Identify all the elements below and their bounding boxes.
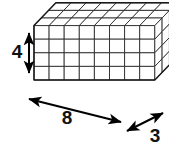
dimension-label-depth: 3 [150, 125, 161, 146]
front-face-cell [64, 26, 79, 40]
front-face-cell [34, 26, 49, 40]
front-face-cell [125, 26, 140, 40]
front-face-cell [79, 66, 94, 80]
isometric-prism-diagram: 4 8 3 [0, 0, 169, 150]
front-face-cell [64, 39, 79, 53]
dimension-label-length: 8 [62, 107, 73, 128]
front-face-cell [34, 66, 49, 80]
front-face-cell [125, 53, 140, 67]
front-face-cell [110, 39, 125, 53]
front-face-cell [110, 66, 125, 80]
front-face-cell [94, 53, 109, 67]
cube-solid [34, 3, 169, 80]
front-face-cell [79, 39, 94, 53]
front-face-cell [125, 66, 140, 80]
front-face-cell [34, 39, 49, 53]
front-face-cell [140, 53, 155, 67]
front-face-cell [49, 53, 64, 67]
front-face-cell [125, 39, 140, 53]
front-face-cell [64, 53, 79, 67]
front-face-cell [94, 26, 109, 40]
front-face-cell [79, 26, 94, 40]
front-face-cell [140, 39, 155, 53]
geometry-figure: 4 8 3 [0, 0, 169, 150]
front-face-cell [140, 26, 155, 40]
front-face-cell [49, 39, 64, 53]
front-face-cell [110, 26, 125, 40]
front-face-cell [140, 66, 155, 80]
front-face-cell [64, 66, 79, 80]
front-face-cell [110, 53, 125, 67]
front-face-cell [94, 39, 109, 53]
front-face-cell [79, 53, 94, 67]
front-face-cell [34, 53, 49, 67]
dimension-label-height: 4 [12, 41, 23, 62]
front-face-cell [49, 66, 64, 80]
front-face-cell [49, 26, 64, 40]
front-face-cell [94, 66, 109, 80]
